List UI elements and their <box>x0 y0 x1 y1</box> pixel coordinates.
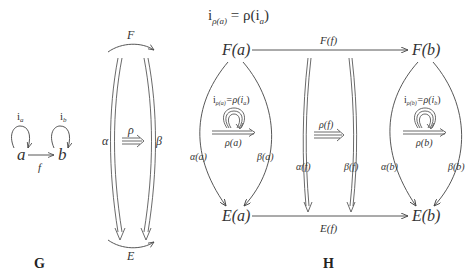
arrow-Ff-label: F(f) <box>319 34 337 47</box>
functor-E-label: E <box>126 249 135 263</box>
graph-g: ia ib a b f <box>12 110 70 173</box>
svg-text:iρ(a) = ρ(ia): iρ(a) = ρ(ia) <box>208 7 269 26</box>
rho-label: ρ <box>127 123 134 137</box>
arrow-f-label: f <box>38 161 43 173</box>
functor-F-label: F <box>126 28 135 42</box>
alpha-b-label: α(b) <box>381 161 399 173</box>
identity-eq-a: iρ(a)=ρ(ia) <box>213 94 250 107</box>
beta-f-arrowhead <box>347 202 355 212</box>
node-Eb: E(b) <box>411 207 440 225</box>
alpha-f-arrowhead <box>304 202 312 212</box>
identity-eq-b: iρ(b)=ρ(ib) <box>404 94 441 107</box>
functor-diagram-g: F α β ρ E <box>102 28 162 263</box>
node-Fb: F(b) <box>411 41 440 59</box>
loop-label-b: ib <box>60 110 67 124</box>
beta-a-label: β(a) <box>256 151 274 163</box>
functor-F-arrow <box>108 44 154 52</box>
modification-loop-b-icon <box>414 108 435 129</box>
alpha-arrowhead <box>115 228 125 240</box>
beta-label: β <box>155 134 162 148</box>
loop-label-a: ia <box>17 110 24 124</box>
rho-f-label: ρ(f) <box>318 119 334 131</box>
modification-loop-a-icon <box>223 108 244 129</box>
diagram-h: F(a) F(b) E(a) E(b) F(f) E(f) α(a) β(a) … <box>190 34 465 235</box>
title-equation: iρ(a) = ρ(ia) <box>208 7 269 26</box>
node-Fa: F(a) <box>221 41 250 59</box>
caption-h: H <box>323 256 334 271</box>
caption-g: G <box>34 256 45 271</box>
node-b: b <box>58 145 67 164</box>
alpha-f-label: α(f) <box>296 161 311 173</box>
alpha-a-label: α(a) <box>190 151 208 163</box>
diagram-canvas: iρ(a) = ρ(ia) ia ib a b f F α β ρ <box>0 0 476 277</box>
alpha-label: α <box>102 134 109 148</box>
node-Ea: E(a) <box>221 207 250 225</box>
beta-arrowhead <box>141 228 151 240</box>
node-a: a <box>17 145 26 164</box>
arrow-Ef-label: E(f) <box>319 222 337 235</box>
rho-a-label: ρ(a) <box>224 137 242 149</box>
beta-b-label: β(b) <box>447 161 465 173</box>
rho-b-label: ρ(b) <box>415 137 433 149</box>
beta-f-label: β(f) <box>343 161 359 173</box>
functor-E-arrow <box>108 240 154 248</box>
